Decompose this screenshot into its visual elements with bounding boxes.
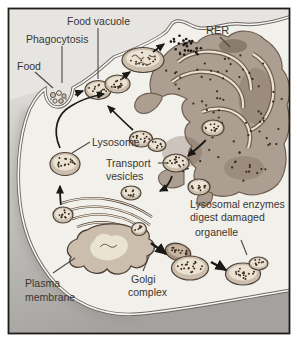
dot xyxy=(262,117,264,119)
dot xyxy=(74,163,76,165)
dot xyxy=(191,185,193,187)
dot xyxy=(60,165,62,167)
dot xyxy=(174,159,176,161)
dot xyxy=(144,137,146,139)
dot xyxy=(258,85,260,87)
dot xyxy=(250,130,252,132)
dot xyxy=(281,98,283,100)
dot xyxy=(213,127,215,129)
dot xyxy=(247,134,249,136)
label-golgi-complex-line1: Golgi xyxy=(131,273,156,285)
dot xyxy=(64,216,66,218)
dot xyxy=(182,39,185,42)
dot xyxy=(192,265,194,267)
dot xyxy=(213,123,215,125)
dot xyxy=(195,47,198,50)
dot xyxy=(119,85,121,87)
dot xyxy=(102,89,104,91)
dot xyxy=(267,144,269,146)
dot xyxy=(128,194,130,196)
dot xyxy=(181,264,183,266)
dot xyxy=(140,59,142,61)
dot xyxy=(259,259,261,261)
cell-endomembrane-diagram: Food vacuole Phagocytosis Food RER Lysos… xyxy=(0,0,297,342)
vesicle-lumen xyxy=(133,224,145,233)
dot xyxy=(252,273,254,275)
dot xyxy=(165,70,167,72)
dot xyxy=(113,86,115,88)
dot xyxy=(175,156,177,158)
dot xyxy=(61,214,63,216)
dot xyxy=(254,259,256,261)
dot xyxy=(174,162,176,164)
label-lysosome: Lysosome xyxy=(92,136,140,148)
dot xyxy=(68,213,70,215)
lysosome xyxy=(50,153,80,176)
dot xyxy=(169,160,171,162)
dot xyxy=(144,140,146,142)
dot xyxy=(64,164,66,166)
dot xyxy=(170,40,173,43)
dot xyxy=(187,261,189,263)
food-vacuole xyxy=(122,48,164,73)
dot xyxy=(243,274,245,276)
dot xyxy=(141,52,143,54)
dot xyxy=(149,58,151,60)
dot xyxy=(68,163,70,165)
dot xyxy=(182,160,184,162)
dot xyxy=(245,278,247,280)
dot xyxy=(216,97,218,99)
dot xyxy=(125,189,127,191)
dot xyxy=(175,83,177,85)
vesicle-lumen xyxy=(204,121,222,132)
dot xyxy=(171,162,173,164)
dot xyxy=(251,78,253,80)
dot xyxy=(137,228,139,230)
food-vacuole-fusing xyxy=(105,75,130,93)
dot xyxy=(249,166,251,168)
dot xyxy=(121,84,123,86)
dot xyxy=(179,53,182,56)
dot xyxy=(147,57,149,59)
dot xyxy=(242,68,244,70)
dot xyxy=(154,58,156,60)
dot xyxy=(224,58,226,60)
diagram-canvas: Food vacuole Phagocytosis Food RER Lysos… xyxy=(0,0,297,342)
dot xyxy=(143,133,145,135)
budding-vesicle xyxy=(202,120,224,136)
dot xyxy=(230,63,232,65)
dot xyxy=(200,47,203,50)
dot xyxy=(178,35,181,38)
dot xyxy=(217,156,219,158)
dot xyxy=(141,226,143,228)
dot xyxy=(264,168,266,170)
dot xyxy=(245,171,247,173)
label-food-vacuole: Food vacuole xyxy=(67,15,130,27)
dot xyxy=(152,141,154,143)
dot xyxy=(98,92,100,94)
dot xyxy=(188,40,191,43)
arrow-golgi-vesicle-to-lysosome xyxy=(60,186,61,205)
dot xyxy=(262,62,264,64)
dot xyxy=(238,270,240,272)
dot xyxy=(58,157,60,159)
dot xyxy=(228,57,230,59)
dot xyxy=(248,273,250,275)
dot xyxy=(211,129,213,131)
dot xyxy=(213,111,215,113)
dot xyxy=(259,121,261,123)
dot xyxy=(179,166,181,168)
vesicle xyxy=(53,207,73,223)
dot xyxy=(238,76,240,78)
dot xyxy=(190,50,193,53)
dot xyxy=(239,268,241,270)
dot xyxy=(183,164,185,166)
dot xyxy=(132,190,134,192)
dot xyxy=(242,180,244,182)
dot xyxy=(209,78,211,80)
dot xyxy=(213,130,215,132)
dot xyxy=(70,161,72,163)
dot xyxy=(218,109,220,111)
dot xyxy=(175,71,177,73)
dot xyxy=(231,166,233,168)
